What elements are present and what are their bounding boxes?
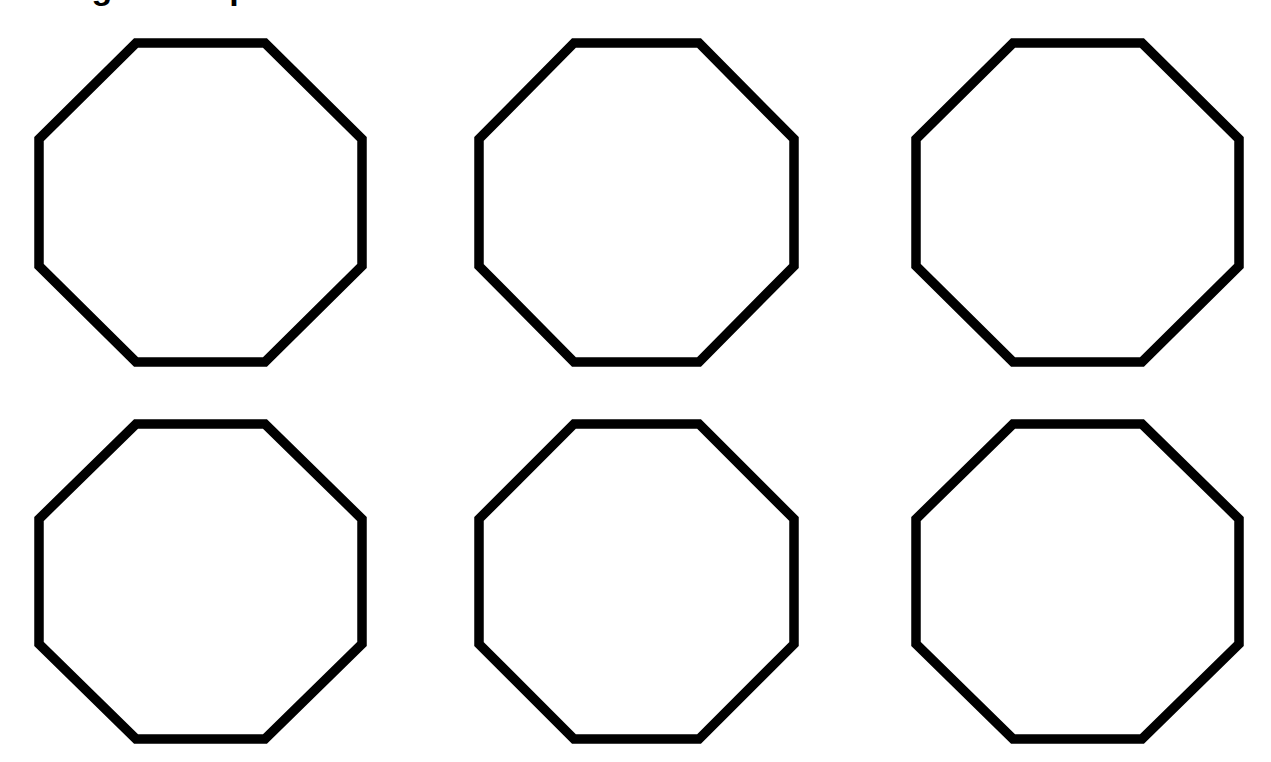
octagon-top-center-icon (473, 37, 800, 368)
octagon-bottom-right-icon (910, 418, 1245, 745)
octagon-bottom-center-icon (473, 418, 800, 745)
octagon-top-right[interactable] (910, 37, 1245, 368)
octagon-top-left-icon (33, 37, 368, 368)
octagon-grid (0, 0, 1271, 762)
octagon-top-center[interactable] (473, 37, 800, 368)
octagon-top-right-icon (910, 37, 1245, 368)
octagon-top-left[interactable] (33, 37, 368, 368)
worksheet-page: Octagon Shapes (0, 0, 1271, 762)
octagon-bottom-left[interactable] (33, 418, 368, 745)
octagon-bottom-right[interactable] (910, 418, 1245, 745)
octagon-bottom-left-icon (33, 418, 368, 745)
octagon-bottom-center[interactable] (473, 418, 800, 745)
